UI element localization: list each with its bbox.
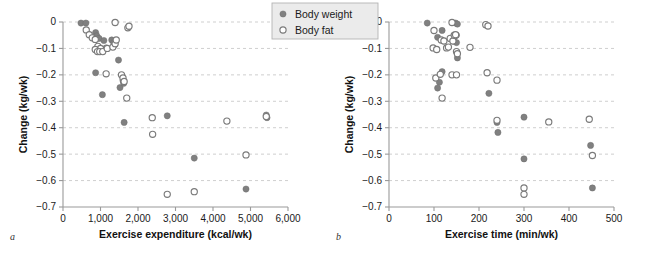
x-tick-label: 0 [386,213,392,224]
data-point-body-weight [589,185,595,191]
data-point-body-weight [121,119,127,125]
x-tick-label: 500 [606,213,623,224]
data-point-body-fat [441,38,447,44]
legend-label-body-fat: Body fat [295,24,334,36]
y-tick-label: −0.4 [36,122,56,133]
data-point-body-fat [224,118,230,124]
data-point-body-fat [437,71,443,77]
legend-marker-body-fat [280,27,286,33]
y-tick-label: 0 [50,16,56,27]
data-point-body-fat [485,23,491,29]
data-point-body-fat [263,114,269,120]
data-point-body-fat [467,44,473,50]
series-body-fat-b [430,19,596,197]
data-point-body-weight [115,57,121,63]
data-point-body-fat [546,119,552,125]
data-point-body-fat [449,19,455,25]
x-tick-label: 200 [471,213,488,224]
data-point-body-fat [434,46,440,52]
data-point-body-fat [494,77,500,83]
scatter-figure: 0−0.1−0.2−0.3−0.4−0.5−0.6−0.701,0002,000… [0,0,648,259]
data-point-body-fat [586,116,592,122]
data-point-body-fat [589,152,595,158]
x-tick-label: 0 [60,213,66,224]
data-point-body-weight [521,156,527,162]
chart-canvas: 0−0.1−0.2−0.3−0.4−0.5−0.6−0.701,0002,000… [0,0,648,259]
y-tick-label: −0.2 [362,69,382,80]
data-point-body-weight [101,37,107,43]
data-point-body-fat [164,191,170,197]
data-point-body-fat [112,19,118,25]
data-point-body-fat [453,72,459,78]
y-axis-title: Change (kg/wk) [343,76,355,154]
y-tick-label: −0.4 [362,122,382,133]
x-tick-label: 6,000 [275,213,300,224]
data-point-body-fat [92,36,98,42]
y-tick-label: −0.7 [362,201,382,212]
data-point-body-weight [83,20,89,26]
x-axis-title: Exercise time (min/wk) [445,228,558,240]
data-point-body-fat [121,78,127,84]
data-point-body-fat [149,115,155,121]
data-point-body-fat [439,95,445,101]
y-tick-label: −0.1 [362,43,382,54]
legend-marker-body-weight [280,11,286,17]
data-point-body-weight [495,129,501,135]
data-point-body-fat [124,95,130,101]
data-point-body-weight [435,85,441,91]
x-tick-label: 4,000 [200,213,225,224]
data-point-body-fat [453,32,459,38]
data-point-body-fat [450,38,456,44]
y-tick-label: −0.2 [36,69,56,80]
data-point-body-weight [99,92,105,98]
y-tick-label: −0.1 [36,43,56,54]
data-point-body-fat [113,37,119,43]
panel-letter-a: a [10,231,15,242]
gridlines-b [389,22,614,181]
data-point-body-weight [93,70,99,76]
data-point-body-weight [191,155,197,161]
y-tick-label: −0.5 [36,149,56,160]
data-point-body-fat [150,131,156,137]
data-point-body-fat [191,189,197,195]
x-axis-title: Exercise expenditure (kcal/wk) [99,228,252,240]
x-tick-label: 300 [516,213,533,224]
x-tick-label: 1,000 [88,213,113,224]
data-point-body-fat [431,27,437,33]
x-tick-label: 2,000 [125,213,150,224]
data-point-body-weight [439,27,445,33]
y-tick-label: −0.7 [36,201,56,212]
y-tick-label: −0.3 [362,96,382,107]
panel-letter-b: b [336,231,341,242]
data-point-body-weight [243,186,249,192]
series-body-fat-a [83,19,269,197]
panel-a: 0−0.1−0.2−0.3−0.4−0.5−0.6−0.701,0002,000… [10,16,301,242]
x-tick-label: 3,000 [163,213,188,224]
y-tick-label: −0.3 [36,96,56,107]
data-point-body-fat [484,70,490,76]
x-tick-label: 100 [426,213,443,224]
data-point-body-fat [243,152,249,158]
x-tick-label: 400 [561,213,578,224]
x-tick-label: 5,000 [238,213,263,224]
y-tick-label: −0.6 [36,175,56,186]
data-point-body-fat [445,44,451,50]
data-point-body-fat [103,71,109,77]
data-point-body-weight [424,20,430,26]
panel-b: 0−0.1−0.2−0.3−0.4−0.5−0.6−0.701002003004… [336,16,623,242]
y-axis-title: Change (kg/wk) [17,76,29,154]
data-point-body-weight [164,113,170,119]
data-point-body-fat [521,185,527,191]
data-point-body-weight [486,90,492,96]
data-point-body-fat [126,23,132,29]
data-point-body-fat [494,117,500,123]
legend-label-body-weight: Body weight [295,8,352,20]
y-tick-label: −0.6 [362,175,382,186]
data-point-body-weight [588,142,594,148]
data-point-body-weight [521,114,527,120]
data-point-body-fat [454,51,460,57]
y-tick-label: −0.5 [362,149,382,160]
legend: Body weightBody fat [272,3,378,39]
data-point-body-fat [521,191,527,197]
